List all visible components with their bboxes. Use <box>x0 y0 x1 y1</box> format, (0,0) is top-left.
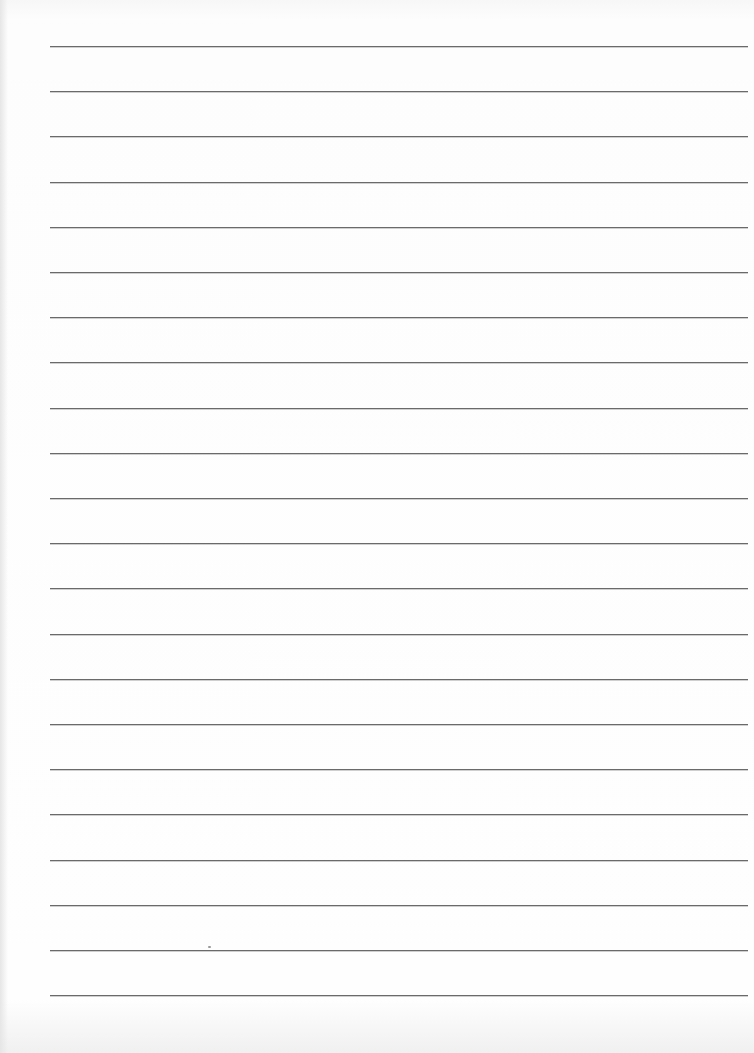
ruled-line <box>50 453 748 454</box>
ruled-line <box>50 679 748 680</box>
ruled-line <box>50 769 748 770</box>
ruled-line <box>50 91 748 92</box>
ruled-line <box>50 362 748 363</box>
ruled-line <box>50 634 748 635</box>
ruled-line <box>50 182 748 183</box>
ruled-line <box>50 950 748 951</box>
ruled-line <box>50 588 748 589</box>
ruled-line <box>50 408 748 409</box>
lined-paper-page <box>0 0 754 1053</box>
ruled-line <box>50 995 748 996</box>
ruled-line <box>50 814 748 815</box>
ruled-line <box>50 317 748 318</box>
page-edge-shadow <box>0 0 8 1053</box>
ruled-line <box>50 227 748 228</box>
ruled-line <box>50 46 748 47</box>
ruled-line <box>50 543 748 544</box>
ruled-line <box>50 498 748 499</box>
ruled-line <box>50 724 748 725</box>
ruled-line <box>50 136 748 137</box>
paper-speck <box>208 946 211 948</box>
ruled-line <box>50 905 748 906</box>
ruled-line <box>50 272 748 273</box>
ruled-line <box>50 860 748 861</box>
